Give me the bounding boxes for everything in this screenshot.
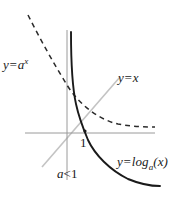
base-condition-relation: <1 xyxy=(64,166,78,181)
exponential-label-exponent: x xyxy=(24,56,28,66)
logarithm-curve-label: y=loga(x) xyxy=(117,155,168,172)
base-condition-label: a<1 xyxy=(57,167,78,180)
x-axis-tick-label-one: 1 xyxy=(80,136,87,149)
base-condition-variable: a xyxy=(57,166,64,181)
logarithm-label-lead: y=log xyxy=(117,154,149,169)
tick-marker-one xyxy=(83,129,86,132)
exponential-curve-label: y=ax xyxy=(3,57,28,71)
logarithm-label-argument: (x) xyxy=(153,154,168,169)
exponential-label-base: y=a xyxy=(3,57,24,72)
identity-line-label: y=x xyxy=(118,71,139,84)
figure-canvas xyxy=(0,0,193,204)
math-figure: y=ax y=x y=loga(x) a<1 1 xyxy=(0,0,193,204)
